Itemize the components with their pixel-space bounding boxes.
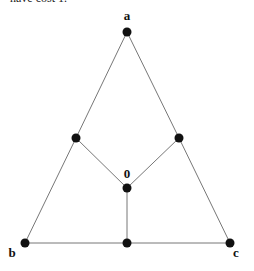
edge-m1-b: [25, 138, 76, 243]
node-label-o: 0: [124, 166, 131, 181]
graph-diagram: a0bc: [0, 0, 254, 271]
edge-m2-c: [179, 138, 230, 243]
node-b: [21, 239, 30, 248]
edge-m2-o: [127, 138, 179, 188]
edge-a-m2: [127, 32, 179, 138]
node-a: [123, 28, 132, 37]
edge-a-m1: [76, 32, 127, 138]
node-m1: [72, 134, 81, 143]
edge-m1-o: [76, 138, 127, 188]
labels-group: a0bc: [8, 8, 239, 260]
node-label-a: a: [124, 8, 131, 23]
node-label-b: b: [8, 245, 15, 260]
node-o: [123, 184, 132, 193]
node-m2: [175, 134, 184, 143]
node-label-c: c: [233, 245, 239, 260]
edges-group: [25, 32, 230, 243]
node-m3: [123, 239, 132, 248]
